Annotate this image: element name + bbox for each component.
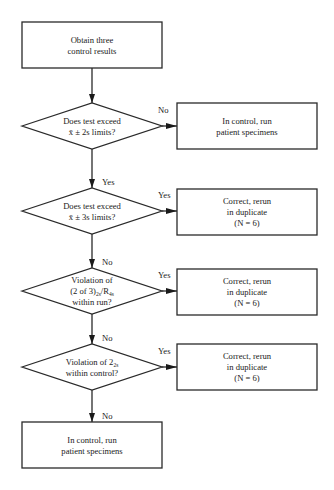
edge-d3-to-d4: No	[89, 314, 113, 344]
edge-label: Yes	[158, 190, 171, 200]
decision-22s-control: Violation of 22swithin control?	[22, 344, 162, 390]
node-text-line: Correct, rerun	[223, 196, 272, 206]
in-control-box-1: In control, runpatient specimens	[177, 103, 317, 149]
node-text-line: Violation of 22s	[66, 357, 119, 368]
node-text-line: Violation of	[71, 275, 112, 285]
correct-rerun-box-3: Correct, rerunin duplicate(N = 6)	[177, 344, 317, 390]
arrowhead-right-icon	[166, 288, 177, 294]
edge-label: Yes	[158, 346, 171, 356]
node-text-line: within run?	[72, 297, 112, 307]
qc-flowchart: Obtain threecontrol resultsDoes test exc…	[0, 0, 334, 490]
node-text-line: Correct, rerun	[223, 351, 272, 361]
edge-start-to-d1	[89, 68, 95, 103]
node-text-line: patient specimens	[216, 127, 278, 137]
node-text-line: x̄ ± 2s limits?	[69, 127, 116, 137]
arrowhead-right-icon	[166, 123, 177, 129]
arrowhead-right-icon	[166, 208, 177, 214]
edge-d1-to-d2: Yes	[89, 149, 115, 188]
node-text-line: Does test exceed	[63, 116, 121, 126]
edge-label: No	[102, 333, 113, 343]
decision-2of3-r4s: Violation of(2 of 3)2s/R4swithin run?	[22, 268, 162, 314]
arrowhead-right-icon	[166, 364, 177, 370]
start-box: Obtain threecontrol results	[22, 22, 162, 68]
arrowhead-down-icon	[89, 179, 95, 188]
node-text-line: control results	[68, 46, 118, 56]
edge-label: No	[102, 411, 113, 421]
edge-label: Yes	[158, 270, 171, 280]
node-text-line: (N = 6)	[234, 218, 260, 228]
node-text-line: Does test exceed	[63, 201, 121, 211]
edge-label: Yes	[102, 177, 115, 187]
arrowhead-down-icon	[89, 335, 95, 344]
decision-3s-limits: Does test exceedx̄ ± 3s limits?	[22, 188, 162, 234]
edge-d4-to-end: No	[89, 390, 113, 422]
node-text-line: In control, run	[222, 116, 272, 126]
node-text-line: x̄ ± 3s limits?	[69, 212, 116, 222]
node-text-line: In control, run	[67, 435, 117, 445]
node-text-line: patient specimens	[61, 446, 123, 456]
edge-label: No	[158, 105, 169, 115]
decision-2s-limits: Does test exceedx̄ ± 2s limits?	[22, 103, 162, 149]
node-text-line: within control?	[66, 368, 118, 378]
correct-rerun-box-2: Correct, rerunin duplicate(N = 6)	[177, 269, 317, 315]
arrowhead-down-icon	[89, 413, 95, 422]
edge-d2-to-d3: No	[89, 234, 113, 268]
in-control-box-2: In control, runpatient specimens	[22, 422, 162, 468]
correct-rerun-box-1: Correct, rerunin duplicate(N = 6)	[177, 189, 317, 235]
node-text-line: Correct, rerun	[223, 276, 272, 286]
node-text-line: in duplicate	[227, 362, 268, 372]
node-text-line: (N = 6)	[234, 373, 260, 383]
node-text-line: in duplicate	[227, 287, 268, 297]
node-text-line: in duplicate	[227, 207, 268, 217]
arrowhead-down-icon	[89, 259, 95, 268]
arrowhead-down-icon	[89, 94, 95, 103]
node-text-line: (2 of 3)2s/R4s	[70, 286, 114, 297]
edge-label: No	[102, 257, 113, 267]
node-text-line: (N = 6)	[234, 298, 260, 308]
node-text-line: Obtain three	[71, 35, 114, 45]
